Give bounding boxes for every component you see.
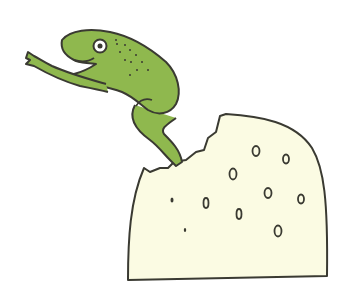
frog-eye — [94, 40, 107, 53]
frog-cheese-illustration — [0, 0, 351, 292]
frog — [26, 30, 182, 166]
